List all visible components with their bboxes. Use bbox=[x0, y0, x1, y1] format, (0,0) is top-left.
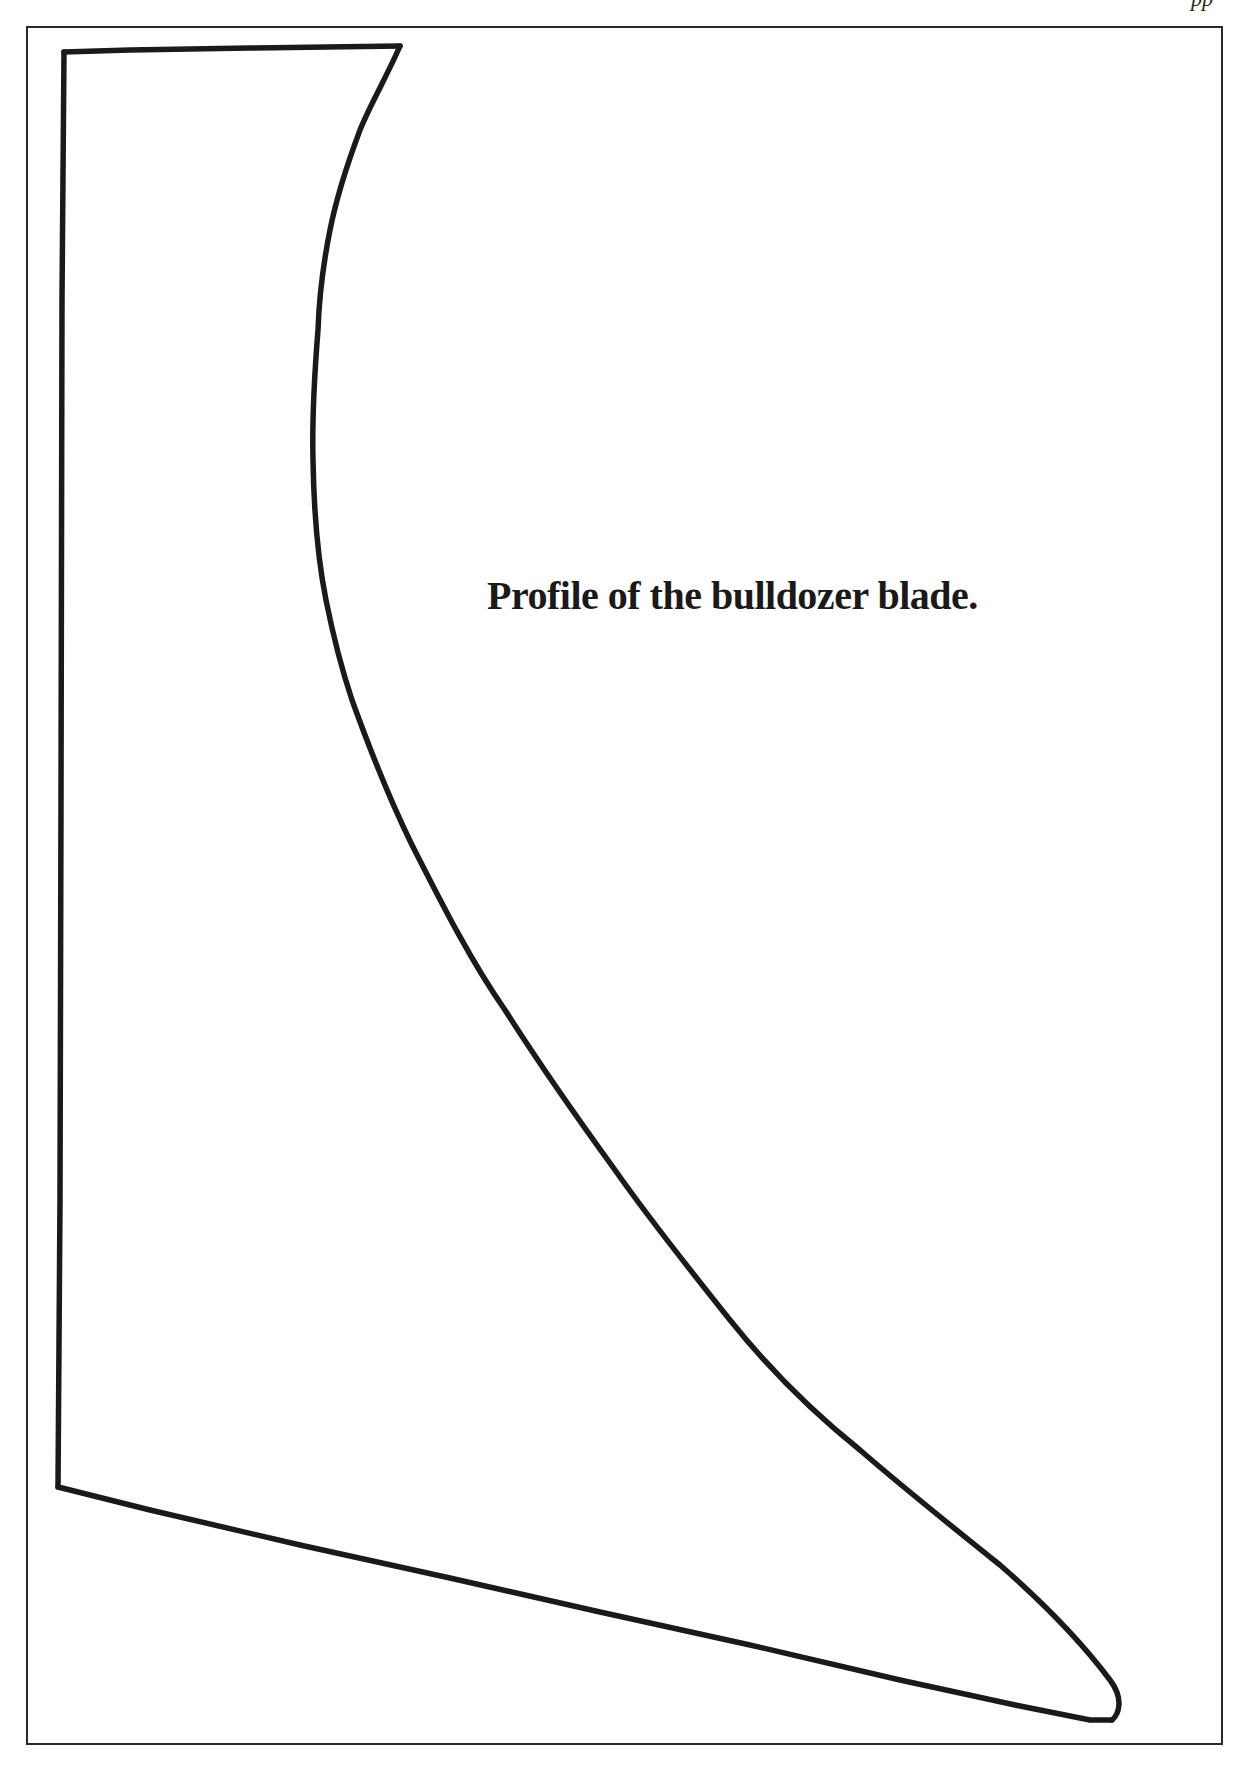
blade-top-edge bbox=[64, 46, 400, 52]
bulldozer-blade-profile-drawing bbox=[0, 0, 1253, 1771]
blade-curved-face bbox=[313, 46, 1119, 1720]
blade-back-edge bbox=[58, 52, 64, 1487]
figure-caption: Profile of the bulldozer blade. bbox=[487, 572, 978, 619]
blade-bottom-edge bbox=[58, 1487, 1112, 1720]
